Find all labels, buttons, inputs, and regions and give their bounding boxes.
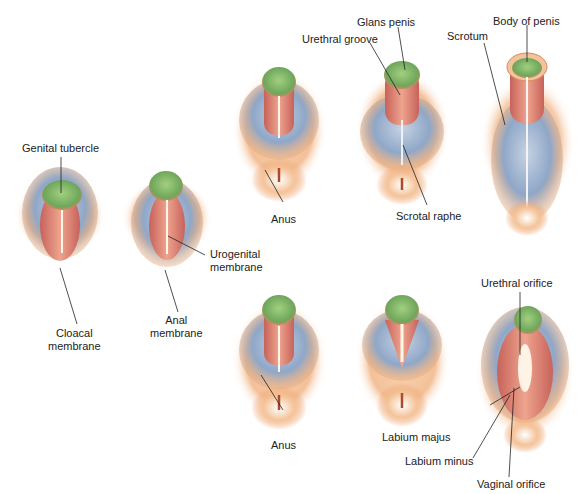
label-urethral-orifice: Urethral orifice <box>481 277 553 290</box>
label-cloacal-line1: Cloacal <box>48 327 101 340</box>
label-scrotum: Scrotum <box>447 30 488 43</box>
label-cloacal-membrane: Cloacal membrane <box>48 327 101 353</box>
label-body-of-penis: Body of penis <box>493 15 560 28</box>
genital-tubercle-shape <box>42 180 82 210</box>
label-urogenital-membrane: Urogenital membrane <box>210 248 263 274</box>
label-anal-line2: membrane <box>150 327 203 340</box>
label-anus-female: Anus <box>271 439 296 452</box>
stage-male-2 <box>355 60 450 210</box>
stage-female-2 <box>355 290 450 440</box>
label-vaginal-orifice: Vaginal orifice <box>477 478 545 491</box>
stage-female-3 <box>475 300 575 460</box>
label-anus-male: Anus <box>271 213 296 226</box>
label-urethral-groove: Urethral groove <box>302 33 378 46</box>
stage-male-1 <box>232 60 327 210</box>
label-genital-tubercle: Genital tubercle <box>22 142 99 155</box>
stage-indifferent-2 <box>122 168 212 268</box>
label-glans-penis: Glans penis <box>357 16 415 29</box>
label-labium-minus: Labium minus <box>405 455 473 468</box>
stage-indifferent-1 <box>15 165 105 265</box>
label-scrotal-raphe: Scrotal raphe <box>396 210 461 223</box>
label-anal-membrane: Anal membrane <box>150 314 203 340</box>
label-urogenital-line2: membrane <box>210 261 263 274</box>
stage-female-1 <box>232 290 327 440</box>
label-urogenital-line1: Urogenital <box>210 248 263 261</box>
label-cloacal-line2: membrane <box>48 340 101 353</box>
label-anal-line1: Anal <box>150 314 203 327</box>
label-labium-majus: Labium majus <box>382 431 450 444</box>
stage-male-3 <box>480 55 575 240</box>
